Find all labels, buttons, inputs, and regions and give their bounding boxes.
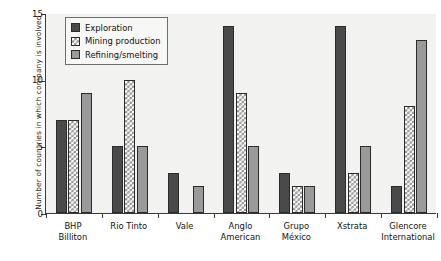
bar-mining — [236, 93, 247, 213]
filled-square-gray-swatch-icon — [71, 50, 80, 59]
category-label-line: American — [213, 232, 269, 243]
legend-item-refining-smelting: Refining/smelting — [71, 49, 160, 60]
legend-item-exploration: Exploration — [71, 22, 160, 33]
bar-group — [214, 14, 270, 213]
bar-mining — [348, 173, 359, 213]
x-axis-category-label: Vale — [157, 221, 213, 232]
legend-item-label: Exploration — [85, 23, 133, 33]
category-label-line: Grupo — [284, 221, 310, 231]
bar-refining — [81, 93, 92, 213]
bar-mining — [292, 186, 303, 213]
category-label-line: International — [380, 232, 436, 243]
x-axis-category-label: GlencoreInternational — [380, 221, 436, 242]
bar-exploration — [335, 26, 346, 213]
x-axis-tick-mark — [102, 213, 103, 218]
bar-mining — [404, 106, 415, 213]
y-axis-tick-label: 5 — [38, 142, 43, 152]
bar-group — [269, 14, 325, 213]
y-axis-tick-label: 10 — [32, 75, 43, 85]
bar-refining — [137, 146, 148, 213]
bar-refining — [416, 40, 427, 213]
x-axis-category-label: Rio Tinto — [101, 221, 157, 232]
bar-exploration — [56, 120, 67, 213]
y-axis-tick-label: 15 — [32, 9, 43, 19]
bar-mining — [124, 80, 135, 213]
bar-exploration — [168, 173, 179, 213]
bar-refining — [304, 186, 315, 213]
x-axis-tick-mark — [437, 213, 438, 218]
y-axis-tick-label: 0 — [38, 209, 43, 219]
bar-chart-figure: Number of countries in which company is … — [0, 0, 441, 261]
bar-exploration — [279, 173, 290, 213]
y-axis-title: Number of countries in which company is … — [34, 13, 43, 213]
bar-refining — [193, 186, 204, 213]
bar-exploration — [391, 186, 402, 213]
x-axis-tick-mark — [325, 213, 326, 218]
bar-exploration — [112, 146, 123, 213]
x-axis-category-label: AngloAmerican — [213, 221, 269, 242]
bar-group — [325, 14, 381, 213]
x-axis-tick-mark — [214, 213, 215, 218]
x-axis-category-label: GrupoMéxico — [268, 221, 324, 242]
x-axis-category-labels: BHPBillitonRio TintoValeAngloAmericanGru… — [45, 221, 436, 255]
x-axis-tick-mark — [381, 213, 382, 218]
category-label-line: Billiton — [45, 232, 101, 243]
bar-refining — [248, 146, 259, 213]
bar-refining — [360, 146, 371, 213]
category-label-line: BHP — [64, 221, 81, 231]
x-axis-category-label: BHPBilliton — [45, 221, 101, 242]
category-label-line: Glencore — [389, 221, 426, 231]
category-label-line: Rio Tinto — [110, 221, 147, 231]
x-axis-tick-mark — [158, 213, 159, 218]
bar-group — [381, 14, 437, 213]
chart-legend: Exploration Mining production Refining/s… — [65, 17, 168, 65]
x-axis-category-label: Xstrata — [324, 221, 380, 232]
bar-mining — [68, 120, 79, 213]
legend-item-mining-production: Mining production — [71, 36, 160, 47]
legend-item-label: Refining/smelting — [85, 50, 158, 60]
x-axis-tick-mark — [269, 213, 270, 218]
category-label-line: Vale — [176, 221, 194, 231]
legend-item-label: Mining production — [85, 36, 160, 46]
filled-square-dark-swatch-icon — [71, 23, 80, 32]
crosshatch-square-swatch-icon — [71, 37, 80, 46]
category-label-line: México — [268, 232, 324, 243]
x-axis-tick-mark — [46, 213, 47, 218]
category-label-line: Xstrata — [337, 221, 367, 231]
category-label-line: Anglo — [229, 221, 253, 231]
bar-exploration — [223, 26, 234, 213]
